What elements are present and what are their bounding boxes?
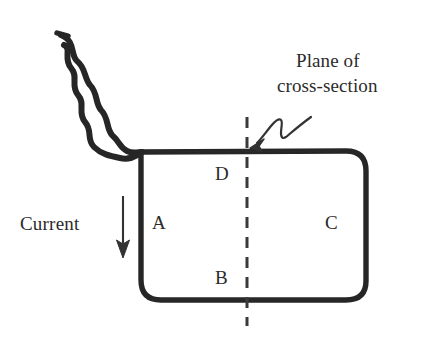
down-arrow-icon [117,196,130,258]
plane-of-cross-section-label-line1: Plane of [296,50,360,71]
point-label-a: A [152,212,166,233]
squiggle-arrow-icon [250,117,311,151]
plane-of-cross-section-label-line2: cross-section [277,75,378,96]
point-label-c: C [325,212,338,233]
twisted-wire-icon [57,33,142,159]
current-label: Current [20,213,79,234]
figure-canvas: Plane of cross-section Current A B C D [0,0,442,337]
point-label-b: B [215,267,228,288]
point-label-d: D [215,163,229,184]
